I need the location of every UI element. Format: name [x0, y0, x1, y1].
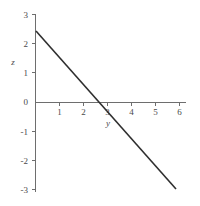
x-tick-label-2: 2 [81, 107, 86, 117]
x-tick-label-1: 1 [57, 107, 62, 117]
x-tick-label-6: 6 [177, 107, 182, 117]
y-tick-label-1: 1 [24, 68, 29, 78]
x-axis-label: y [105, 118, 110, 128]
y-tick-label-3: 3 [24, 10, 29, 20]
y-axis-label: z [10, 57, 15, 67]
y-tick-label-2: 2 [24, 39, 29, 49]
y-tick-label-neg2: -2 [21, 156, 29, 166]
line-chart: 1 2 3 4 5 6 3 2 1 0 -1 -2 -3 z y [0, 0, 200, 206]
y-tick-label-neg1: -1 [21, 127, 29, 137]
x-tick-label-4: 4 [129, 107, 134, 117]
chart-canvas: 1 2 3 4 5 6 3 2 1 0 -1 -2 -3 z y [0, 0, 200, 206]
y-tick-label-0: 0 [24, 97, 29, 107]
y-tick-label-neg3: -3 [21, 185, 29, 195]
x-tick-label-5: 5 [153, 107, 158, 117]
